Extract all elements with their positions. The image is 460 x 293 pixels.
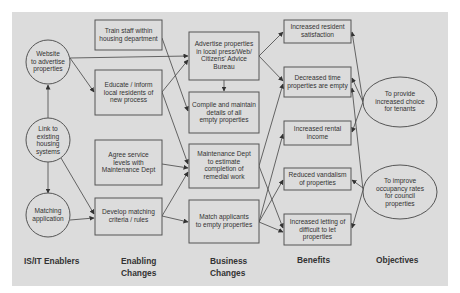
node-choice: To provideincreased choicefor tenants — [363, 77, 437, 127]
svg-text:Maintenance Deptto estimatecom: Maintenance Deptto estimatecompletion of… — [197, 150, 251, 180]
edge-occupancy-decreased — [352, 88, 363, 190]
column-label-business: BusinessChanges — [210, 256, 248, 278]
svg-text:Train staff withinhousing depa: Train staff withinhousing department — [99, 27, 157, 43]
column-label-objectives: Objectives — [376, 255, 419, 265]
node-occupancy: To improveoccupancy ratesfor councilprop… — [363, 165, 437, 219]
column-labels: IS/IT Enablers EnablingChanges BusinessC… — [24, 255, 419, 278]
edge-match-rental — [259, 134, 283, 222]
node-letting: Increased letting ofdifficult to letprop… — [284, 214, 351, 245]
edge-advertise-satisfaction — [259, 32, 283, 56]
node-satisfaction: Increased residentsatisfaction — [284, 20, 351, 43]
edge-website-educate — [70, 58, 94, 92]
svg-text:Matchingapplication: Matchingapplication — [32, 207, 64, 223]
edge-match-letting — [259, 222, 283, 232]
edge-develop-match — [162, 216, 188, 222]
node-develop: Develop matchingcriteria / rules — [95, 198, 162, 235]
node-website: Websiteto advertiseproperties — [26, 40, 70, 84]
benefits-dependency-network: Websiteto advertiseproperties Link toexi… — [0, 0, 460, 293]
node-maintenance: Maintenance Deptto estimatecompletion of… — [189, 144, 259, 188]
node-advertise: Advertise propertiesin local press/Web/C… — [189, 32, 259, 80]
edge-website-advertise — [70, 56, 188, 58]
edge-advertise-decreased — [259, 56, 283, 81]
node-agree: Agree servicelevels withMaintenance Dept — [95, 140, 162, 185]
svg-text:Match applicantsto empty prope: Match applicantsto empty properties — [196, 213, 253, 229]
column-label-enablers: IS/IT Enablers — [24, 256, 80, 266]
edge-matching-develop — [70, 218, 94, 220]
node-matching: Matchingapplication — [26, 193, 70, 237]
edge-maintenance-letting — [259, 166, 283, 228]
node-match: Match applicantsto empty properties — [189, 200, 259, 243]
node-compile: Compile and maintaindetails of allempty … — [189, 92, 259, 133]
edge-educate-maintenance — [162, 92, 188, 164]
edge-occupancy-vandalism — [352, 180, 363, 188]
node-decreased: Decreased timeproperties are empty — [284, 67, 351, 97]
edge-educate-advertise — [162, 60, 188, 92]
edge-agree-maintenance — [162, 164, 188, 168]
node-rental: Increased rentalincome — [284, 121, 351, 145]
edge-maintenance-decreased — [259, 84, 283, 166]
node-vandalism: Reduced vandalismof properties — [284, 168, 351, 190]
node-link: Link toexistinghousingsystems — [26, 118, 70, 162]
edge-choice-satisfaction — [352, 32, 363, 102]
svg-text:Educate / informlocal resident: Educate / informlocal residents ofnew pr… — [104, 81, 154, 104]
column-label-enabling: EnablingChanges — [121, 256, 157, 278]
edge-match-vandalism — [259, 180, 283, 222]
svg-text:Link toexistinghousingsystems: Link toexistinghousingsystems — [36, 125, 61, 156]
svg-text:Develop matchingcriteria / rul: Develop matchingcriteria / rules — [102, 208, 155, 223]
edge-develop-maintenance — [162, 172, 188, 216]
edge-train-compile — [162, 38, 188, 111]
column-label-benefits: Benefits — [297, 255, 330, 265]
node-educate: Educate / informlocal residents ofnew pr… — [95, 70, 162, 115]
node-train: Train staff withinhousing department — [95, 20, 162, 50]
svg-text:Decreased timeproperties are: Decreased timeproperties are empty — [287, 74, 348, 90]
edge-occupancy-letting — [352, 190, 363, 228]
